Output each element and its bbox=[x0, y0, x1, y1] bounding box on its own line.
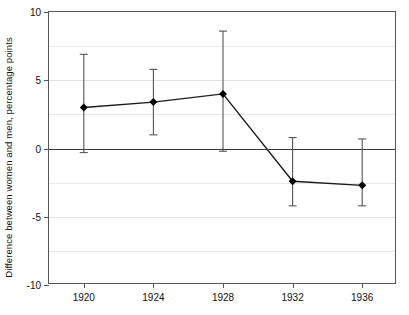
y-tick-label: -10 bbox=[27, 280, 41, 291]
y-tick-label: 5 bbox=[35, 75, 41, 86]
x-tick-label: 1924 bbox=[142, 292, 164, 303]
x-tick-label: 1928 bbox=[212, 292, 234, 303]
y-axis-label: Difference between women and men, percen… bbox=[0, 0, 16, 315]
data-point-marker bbox=[80, 104, 88, 112]
data-point-marker bbox=[358, 181, 366, 189]
data-point-marker bbox=[149, 98, 157, 106]
plot-wrapper: 1050-5-10 19201924192819321936 bbox=[48, 11, 396, 284]
y-tick-label: 10 bbox=[30, 7, 41, 18]
zero-reference-line bbox=[49, 149, 395, 150]
x-tick-label: 1920 bbox=[73, 292, 95, 303]
chart-figure: Difference between women and men, percen… bbox=[0, 0, 409, 315]
y-tick-mark bbox=[44, 285, 49, 286]
x-tick-label: 1936 bbox=[351, 292, 373, 303]
y-tick-label: 0 bbox=[35, 143, 41, 154]
y-tick-label: -5 bbox=[32, 211, 41, 222]
plot-area: 1050-5-10 19201924192819321936 bbox=[48, 11, 396, 284]
x-tick-label: 1932 bbox=[281, 292, 303, 303]
error-bar bbox=[80, 54, 88, 152]
